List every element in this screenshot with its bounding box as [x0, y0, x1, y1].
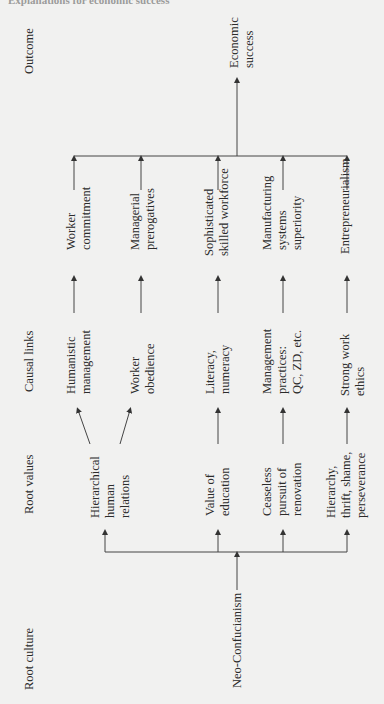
- causal-strong-work-ethics: Strong work ethics: [338, 334, 368, 396]
- heading-root-values: Root values: [22, 455, 37, 514]
- causal-literacy-numeracy: Literacy, numeracy: [203, 345, 233, 394]
- heading-outcome: Outcome: [22, 28, 37, 74]
- root-value-hierarchy-thrift: Hierarchy, thrift, shame, perseverance: [324, 452, 369, 518]
- root-value-renovation: Ceaseless pursuit of renovation: [260, 463, 305, 516]
- effect-skilled-workforce: Sophisticated skilled workforce: [202, 168, 232, 256]
- diagram-connectors: [0, 0, 384, 704]
- causal-management-practices: Management practices: QC, ZD, etc.: [260, 329, 305, 394]
- effect-worker-commitment: Worker commitment: [64, 187, 94, 250]
- causal-humanistic-management: Humanistic management: [64, 330, 94, 394]
- root-culture-neo-confucianism: Neo-Confucianism: [230, 593, 245, 688]
- outcome-economic-success: Economic success: [227, 17, 257, 68]
- effect-managerial-prerogatives: Managerial prerogatives: [128, 188, 158, 250]
- root-value-hierarchical-relations: Hierarchical human relations: [88, 456, 133, 518]
- root-value-education: Value of education: [203, 467, 233, 516]
- effect-entrepreneurialism: Entrepreneurialism: [338, 158, 353, 254]
- heading-root-culture: Root culture: [22, 628, 37, 690]
- heading-causal-links: Causal links: [22, 331, 37, 392]
- causal-worker-obedience: Worker obedience: [128, 343, 158, 394]
- effect-manufacturing-superiority: Manufacturing systems superiority: [260, 176, 305, 250]
